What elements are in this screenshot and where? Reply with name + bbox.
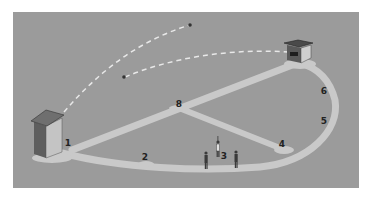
right-booth-window [290, 52, 298, 56]
marker-4: 4 [279, 140, 285, 149]
left-booth-front [34, 122, 46, 158]
marker-8: 8 [176, 100, 182, 109]
field [13, 12, 359, 188]
marker-2: 2 [142, 153, 148, 162]
marker-6: 6 [321, 87, 327, 96]
pad-2 [138, 161, 154, 167]
left-booth [31, 110, 64, 158]
marker-1: 1 [65, 139, 71, 148]
trajectory-point-low [122, 75, 126, 79]
marker-5: 5 [321, 117, 327, 126]
trajectory-point-high [188, 23, 192, 27]
marker-3: 3 [221, 152, 227, 161]
